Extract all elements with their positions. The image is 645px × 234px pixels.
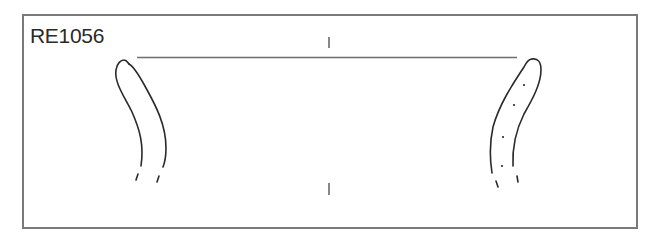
pottery-profile-drawing: [0, 0, 645, 234]
right-profile: [490, 59, 541, 187]
left-profile: [116, 60, 166, 182]
